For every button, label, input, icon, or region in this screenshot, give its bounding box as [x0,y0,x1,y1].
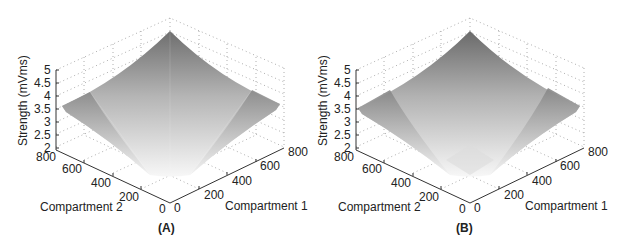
panel-label-a: (A) [158,221,175,235]
panel-b: Strength (mVms) 5 4.5 4 3.5 3 2.5 2 800 … [306,0,616,246]
panel-a: Strength (mVms) 5 4.5 4 3.5 3 2.5 2 800 … [0,0,310,246]
x-tick: 400 [232,175,252,187]
x-tick: 600 [560,160,580,172]
z-tick: 5 [44,64,51,76]
y-tick: 0 [159,203,166,215]
y-axis-label: Compartment 2 [338,201,421,213]
y-tick: 200 [419,191,439,203]
x-tick: 600 [260,160,280,172]
x-axis-label: Compartment 1 [525,200,608,212]
z-tick: 4.5 [334,77,351,89]
x-axis-label: Compartment 1 [225,200,308,212]
z-axis-label: Strength (mVms) [316,55,330,146]
x-tick: 200 [504,189,524,201]
z-tick: 5 [344,64,351,76]
y-tick: 0 [459,203,466,215]
y-tick: 600 [362,163,382,175]
x-tick: 200 [204,189,224,201]
y-tick: 600 [62,163,82,175]
x-tick: 800 [588,146,608,158]
y-tick: 400 [391,177,411,189]
y-tick: 400 [91,177,111,189]
z-tick: 2.5 [34,129,51,141]
z-tick: 2.5 [334,129,351,141]
z-tick: 4 [344,90,351,102]
z-tick: 3.5 [34,103,51,115]
x-tick: 400 [532,175,552,187]
x-tick: 0 [474,202,481,214]
z-axis-label: Strength (mVms) [16,55,30,146]
x-tick: 0 [174,202,181,214]
z-tick: 4.5 [34,77,51,89]
y-tick: 800 [36,151,56,163]
z-tick: 4 [44,90,51,102]
panel-label-b: (B) [456,221,473,235]
y-axis-label: Compartment 2 [40,201,123,213]
z-tick: 3 [344,116,351,128]
y-tick: 800 [334,151,354,163]
z-tick: 3 [44,116,51,128]
z-tick: 3.5 [334,103,351,115]
